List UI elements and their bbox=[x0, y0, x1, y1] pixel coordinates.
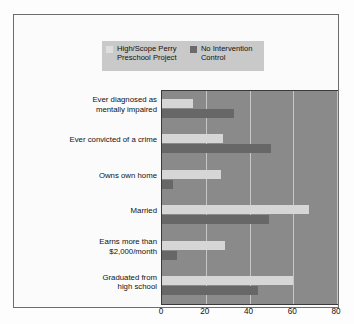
x-axis-tick-labels: 020406080 bbox=[161, 307, 336, 321]
bar-group bbox=[162, 127, 337, 163]
bar-group bbox=[162, 91, 337, 127]
x-tick-60: 60 bbox=[288, 307, 297, 316]
bar bbox=[162, 215, 269, 224]
bar-group bbox=[162, 233, 337, 269]
bar bbox=[162, 251, 177, 260]
bar-groups bbox=[162, 91, 337, 304]
bar bbox=[162, 99, 193, 108]
chart-figure: High/Scope Perry Preschool Project No In… bbox=[0, 0, 354, 324]
category-label: Married bbox=[32, 206, 157, 216]
bar-group bbox=[162, 198, 337, 234]
bar-group bbox=[162, 269, 337, 305]
category-label: Ever diagnosed as mentally impaired bbox=[32, 95, 157, 114]
legend-label-perry-preschool: High/Scope Perry Preschool Project bbox=[117, 44, 177, 63]
bar bbox=[162, 144, 271, 153]
chart-legend: High/Scope Perry Preschool Project No In… bbox=[102, 41, 264, 71]
x-tick-80: 80 bbox=[331, 307, 340, 316]
bar bbox=[162, 286, 258, 295]
dark-swatch-icon bbox=[190, 46, 197, 53]
bar bbox=[162, 109, 234, 118]
category-label: Owns own home bbox=[32, 171, 157, 181]
x-tick-40: 40 bbox=[244, 307, 253, 316]
category-label: Graduated from high school bbox=[32, 273, 157, 292]
bar bbox=[162, 276, 293, 285]
plot-area bbox=[161, 90, 338, 305]
x-tick-0: 0 bbox=[159, 307, 164, 316]
figure-frame: High/Scope Perry Preschool Project No In… bbox=[13, 14, 339, 308]
category-label: Earns more than $2,000/month bbox=[32, 237, 157, 256]
bar bbox=[162, 180, 173, 189]
light-swatch-icon bbox=[106, 46, 113, 53]
bar bbox=[162, 241, 225, 250]
bar bbox=[162, 170, 221, 179]
bar bbox=[162, 134, 223, 143]
legend-entry-no-intervention-control: No Intervention Control bbox=[190, 41, 264, 71]
category-axis-labels: Ever diagnosed as mentally impairedEver … bbox=[32, 90, 157, 303]
category-label: Ever convicted of a crime bbox=[32, 135, 157, 145]
gridline-80 bbox=[337, 91, 338, 304]
x-tick-20: 20 bbox=[200, 307, 209, 316]
legend-entry-perry-preschool: High/Scope Perry Preschool Project bbox=[102, 41, 190, 71]
bar-group bbox=[162, 162, 337, 198]
legend-label-no-intervention-control: No Intervention Control bbox=[201, 44, 253, 63]
bar bbox=[162, 205, 309, 214]
